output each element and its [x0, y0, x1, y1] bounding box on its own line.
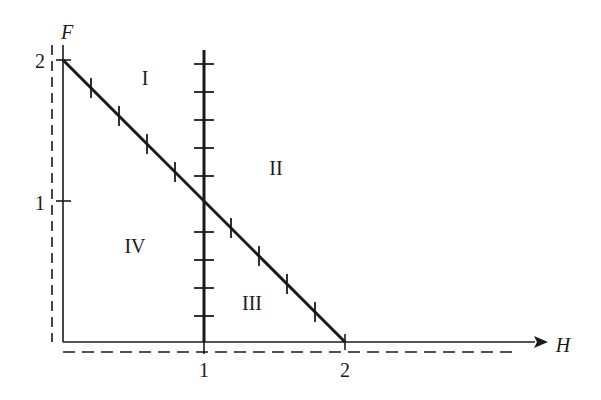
region-label-iii: III — [242, 293, 262, 313]
x-axis-arrowhead-icon — [534, 336, 548, 348]
diagram-canvas — [0, 0, 601, 400]
x-tick-label-1: 1 — [199, 360, 209, 380]
y-tick-label-2: 2 — [35, 51, 45, 71]
region-label-ii: II — [269, 158, 282, 178]
y-axis-label: F — [61, 22, 73, 42]
region-label-i: I — [142, 68, 149, 88]
x-tick-label-2: 2 — [340, 360, 350, 380]
y-tick-label-1: 1 — [35, 193, 45, 213]
x-axis-label: H — [556, 335, 570, 355]
region-label-iv: IV — [124, 236, 145, 256]
